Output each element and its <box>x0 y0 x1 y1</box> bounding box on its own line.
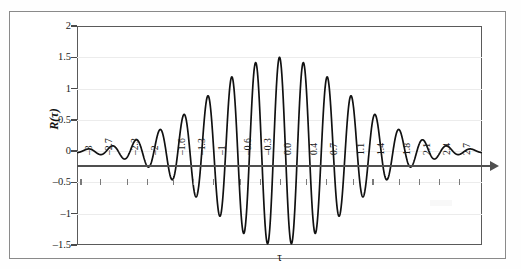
x-tick-mark <box>147 179 148 185</box>
y-tick-label: 1 <box>33 84 71 95</box>
x-tick-label: –3 <box>84 146 94 156</box>
y-tick-label: –1 <box>33 209 71 220</box>
x-tick-mark <box>372 179 373 185</box>
x-tick-mark <box>127 179 128 185</box>
x-tick-label: 2.7 <box>462 143 472 155</box>
x-tick-mark <box>173 179 174 185</box>
figure-canvas: R(τ) 21.510.50–0.5–1–1.5 –3–2.7–2.3–2–1.… <box>0 0 521 269</box>
x-tick-mark <box>193 179 194 185</box>
x-tick-label: –1.3 <box>197 138 207 155</box>
y-tick-label: 1.5 <box>33 52 71 63</box>
x-tick-mark <box>213 179 214 185</box>
plot-area: –3–2.7–2.3–2–1.6–1.3–1–0.6–0.30.00.40.71… <box>77 26 482 245</box>
x-tick-label: 1.1 <box>356 143 366 155</box>
x-tick-label: 1.4 <box>376 143 386 155</box>
y-axis-tick-labels: 21.510.50–0.5–1–1.5 <box>33 26 71 245</box>
x-tick-label: 2.1 <box>422 143 432 155</box>
x-tick-label: –0.3 <box>263 138 273 155</box>
x-tick-label: 2.4 <box>442 143 452 155</box>
x-tick-label: 0.7 <box>329 143 339 155</box>
x-tick-label: 0.4 <box>309 143 319 155</box>
y-tick-label: 2 <box>33 21 71 32</box>
x-tick-label: –2.7 <box>104 138 114 155</box>
y-tick-label: –0.5 <box>33 177 71 188</box>
x-tick-mark <box>100 179 101 185</box>
zero-line-stroke <box>77 165 492 166</box>
x-tick-mark <box>306 179 307 185</box>
axis-arrow-icon <box>490 161 499 171</box>
y-tick-label: –1.5 <box>33 240 71 251</box>
x-tick-label: –1.6 <box>177 138 187 155</box>
x-tick-label: –2.3 <box>130 138 140 155</box>
x-tick-mark <box>240 179 241 185</box>
y-tick-label: 0 <box>33 146 71 157</box>
x-tick-mark <box>353 179 354 185</box>
x-tick-mark <box>280 179 281 185</box>
x-tick-mark <box>80 179 81 185</box>
x-tick-mark <box>326 179 327 185</box>
x-tick-mark <box>459 179 460 185</box>
x-tick-label: –0.6 <box>243 138 253 155</box>
x-tick-label: –1 <box>217 146 227 156</box>
x-tick-mark <box>439 179 440 185</box>
x-tick-mark <box>260 179 261 185</box>
x-tick-mark <box>399 179 400 185</box>
y-tick-label: 0.5 <box>33 115 71 126</box>
series-line-r-tau <box>77 26 482 245</box>
x-tick-label: 0.0 <box>283 143 293 155</box>
x-tick-label: –2 <box>150 146 160 156</box>
x-tick-label: 1.8 <box>402 143 412 155</box>
x-axis-title: τ <box>77 251 482 263</box>
x-tick-mark <box>419 179 420 185</box>
